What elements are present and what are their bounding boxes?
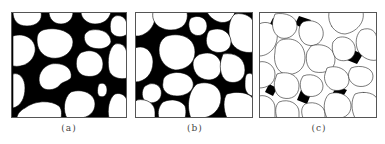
caption-c: (c)	[299, 123, 339, 133]
panel-a	[11, 12, 127, 118]
panel-b	[135, 12, 253, 118]
panel-c	[259, 12, 377, 118]
panel-c-drawing	[259, 12, 377, 118]
panel-b-drawing	[135, 12, 253, 118]
caption-b: (b)	[175, 123, 215, 133]
panel-a-drawing	[11, 12, 127, 118]
caption-a: (a)	[49, 123, 89, 133]
